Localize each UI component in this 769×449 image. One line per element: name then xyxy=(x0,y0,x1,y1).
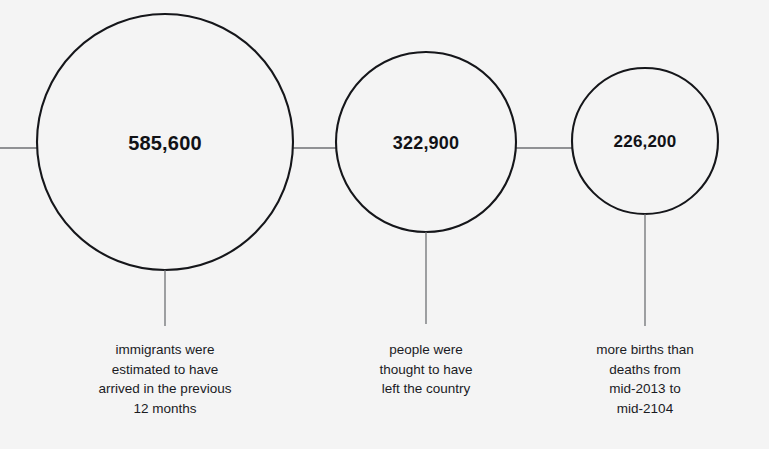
bubble-value-natural-change: 226,200 xyxy=(614,132,677,152)
bubble-infographic: 585,600 322,900 226,200 immigrants were … xyxy=(0,0,769,449)
bubble-value-emigrants: 322,900 xyxy=(393,133,459,154)
bubble-caption-emigrants: people were thought to have left the cou… xyxy=(326,340,526,399)
bubble-value-immigrants: 585,600 xyxy=(128,132,202,155)
bubble-caption-natural-change: more births than deaths from mid-2013 to… xyxy=(550,340,740,418)
bubble-stems xyxy=(165,214,645,326)
bubble-caption-immigrants: immigrants were estimated to have arrive… xyxy=(35,340,295,418)
